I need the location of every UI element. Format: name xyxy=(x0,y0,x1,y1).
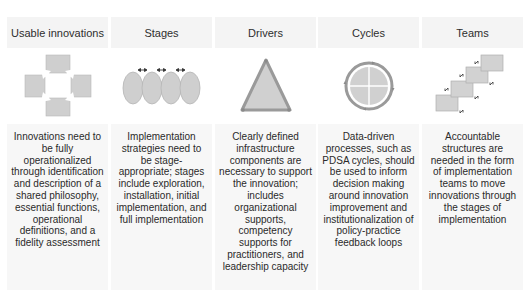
column-title: Teams xyxy=(422,17,523,48)
column-teams: Teams Accountable structures are needed … xyxy=(422,0,523,294)
column-stages: Stages Implementation strategies need xyxy=(111,0,212,294)
column-drivers: Drivers Clearly defined infrastructure c… xyxy=(215,0,316,294)
column-cycles: Cycles Data-driven processes, such as PD… xyxy=(318,0,419,294)
triangle-icon xyxy=(215,52,316,120)
cross-arrows-squares-icon xyxy=(7,52,108,120)
column-description: Implementation strategies need to be sta… xyxy=(111,124,212,290)
staircase-boxes-icon xyxy=(422,52,523,120)
overlapping-ovals-icon xyxy=(111,52,212,120)
column-usable-innovations: Usable innovations Innovations need to b… xyxy=(7,0,108,294)
column-title: Usable innovations xyxy=(7,17,108,48)
column-title: Stages xyxy=(111,17,212,48)
column-description: Accountable structures are needed in the… xyxy=(422,124,523,290)
column-title: Drivers xyxy=(215,17,316,48)
column-description: Innovations need to be fully operational… xyxy=(7,124,108,290)
column-description: Data-driven processes, such as PDSA cycl… xyxy=(318,124,419,290)
column-description: Clearly defined infrastructure component… xyxy=(215,124,316,290)
cycle-circle-icon xyxy=(318,52,419,120)
column-title: Cycles xyxy=(318,17,419,48)
